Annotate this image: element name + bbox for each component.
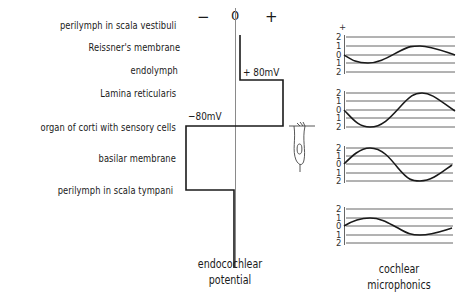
svg-text:2: 2 <box>336 67 341 77</box>
microphonics-panel-1: + 21012 <box>336 22 455 77</box>
svg-text:2: 2 <box>336 176 341 186</box>
svg-text:2: 2 <box>336 238 341 248</box>
caption-line-1: endocochlear <box>193 256 267 272</box>
microphonics-panel-3: 21012 <box>336 143 453 186</box>
microphonics-panel-2: 21012 <box>336 88 455 132</box>
svg-text:2: 2 <box>336 122 341 132</box>
plus-sign: + <box>339 22 346 32</box>
caption-line-2: potential <box>193 272 267 288</box>
hair-cell-icon <box>289 122 315 172</box>
microphonics-panel-4: 21012 <box>336 204 453 248</box>
caption-endocochlear-potential: endocochlear potential <box>193 256 267 288</box>
caption-line-1: cochlear <box>358 261 441 277</box>
caption-line-2: microphonics <box>358 277 441 293</box>
endocochlear-potential-trace <box>186 35 283 268</box>
caption-cochlear-microphonics: cochlear microphonics <box>358 261 441 293</box>
